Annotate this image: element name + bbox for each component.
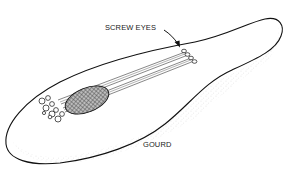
- screw-eyes-leader-arrow: [164, 30, 180, 48]
- screw-eyes-label: SCREW EYES: [105, 23, 156, 32]
- bridge-wrap: [61, 80, 113, 119]
- screw-eyes: [182, 49, 197, 63]
- gourd-label: GOURD: [143, 140, 171, 149]
- tuning-pegs: [39, 96, 64, 122]
